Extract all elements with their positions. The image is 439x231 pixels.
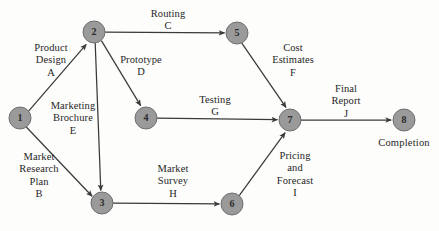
edge-label-routing-c: Routing C bbox=[139, 8, 197, 33]
node-circle-8[interactable] bbox=[393, 109, 415, 131]
node-circle-3[interactable] bbox=[91, 192, 113, 214]
node-circle-6[interactable] bbox=[221, 193, 243, 215]
node-circle-1[interactable] bbox=[9, 107, 31, 129]
node-circle-7[interactable] bbox=[279, 109, 301, 131]
edge-label-cost-estimates-f: Cost Estimates F bbox=[262, 42, 324, 79]
edge-line-3-6 bbox=[113, 203, 219, 204]
edge-label-marketing-brochure-e: Marketing Brochure E bbox=[44, 100, 102, 137]
edge-label-market-survey-h: Market Survey H bbox=[144, 163, 202, 200]
edge-label-prototype-d: Prototype D bbox=[112, 54, 170, 79]
node-circle-5[interactable] bbox=[226, 22, 248, 44]
edge-label-product-design-a: Product Design A bbox=[22, 42, 80, 79]
node-circle-4[interactable] bbox=[135, 107, 157, 129]
edge-label-testing-g: Testing G bbox=[189, 94, 241, 119]
network-diagram-canvas: 1 2 3 4 5 6 7 8 Product Design A Routing… bbox=[0, 0, 439, 231]
completion-annotation: Completion bbox=[369, 137, 439, 149]
edge-label-final-report-j: Final Report J bbox=[321, 83, 371, 120]
edge-label-market-research-plan-b: Market Research Plan B bbox=[11, 151, 67, 201]
node-circle-2[interactable] bbox=[83, 21, 105, 43]
edge-label-pricing-and-forecast-i: Pricing and Forecast I bbox=[266, 150, 324, 200]
